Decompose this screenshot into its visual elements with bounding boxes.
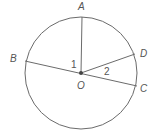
angle-1-label: 1 <box>71 59 77 70</box>
label-d: D <box>140 48 147 59</box>
label-c: C <box>140 83 148 94</box>
segment-oa <box>81 17 82 73</box>
angle-2-label: 2 <box>104 66 110 77</box>
center-dot <box>79 71 83 75</box>
label-b: B <box>10 53 17 64</box>
label-o: O <box>77 80 85 91</box>
label-a: A <box>77 1 85 12</box>
circle-diagram: A B C D O 1 2 <box>0 0 155 139</box>
